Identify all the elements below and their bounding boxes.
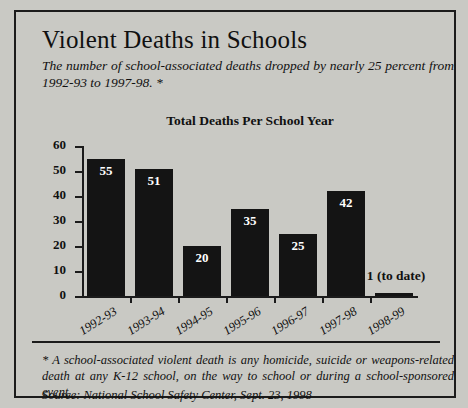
bar-value-label: 25 [279, 238, 317, 254]
y-axis-tick: 0 [75, 296, 82, 298]
x-axis-tick [226, 298, 228, 303]
y-axis-tick: 30 [75, 221, 82, 223]
y-axis-tick: 40 [75, 196, 82, 198]
x-axis-tick [130, 298, 132, 303]
bar-value-label: 55 [87, 163, 125, 179]
bar-value-label: 42 [327, 195, 365, 211]
chart-title: Total Deaths Per School Year [16, 113, 468, 129]
bar-chart-plot: 0102030405060 5551203525421 (to date) 19… [82, 146, 418, 298]
x-axis-label: 1998-99 [356, 304, 408, 344]
bar: 25 [279, 234, 317, 297]
x-axis-label: 1994-95 [164, 304, 216, 344]
bar: 42 [327, 191, 365, 296]
y-axis-tick-label: 60 [53, 137, 66, 153]
x-axis-label: 1997-98 [308, 304, 360, 344]
y-axis-tick: 20 [75, 246, 82, 248]
page-subtitle: The number of school-associated deaths d… [42, 58, 454, 91]
x-axis-label: 1995-96 [212, 304, 264, 344]
x-axis-tick [370, 298, 372, 303]
page-title: Violent Deaths in Schools [42, 26, 307, 54]
bar: 35 [231, 209, 269, 297]
x-axis-tick [322, 298, 324, 303]
bar-value-label: 35 [231, 213, 269, 229]
bar: 51 [135, 169, 173, 297]
source-text: Source: National School Safety Center, S… [42, 388, 312, 403]
y-axis-tick-label: 10 [53, 262, 66, 278]
x-axis-tick [274, 298, 276, 303]
x-axis-label: 1992-93 [68, 304, 120, 344]
y-axis-tick: 50 [75, 171, 82, 173]
bar-annotation-label: 1 (to date) [367, 268, 425, 284]
y-axis-tick-label: 40 [53, 187, 66, 203]
y-axis [82, 146, 84, 298]
x-axis-tick [178, 298, 180, 303]
y-axis-tick: 60 [75, 146, 82, 148]
bar [375, 293, 413, 296]
y-axis-tick: 10 [75, 271, 82, 273]
bar: 20 [183, 246, 221, 296]
bar-value-label: 51 [135, 173, 173, 189]
x-axis-label: 1996-97 [260, 304, 312, 344]
y-axis-tick-label: 50 [53, 162, 66, 178]
bar-value-label: 20 [183, 250, 221, 266]
infographic-page: Violent Deaths in Schools The number of … [0, 0, 468, 408]
x-axis [82, 296, 418, 298]
x-axis-label: 1993-94 [116, 304, 168, 344]
bar: 55 [87, 159, 125, 297]
y-axis-tick-label: 30 [53, 212, 66, 228]
y-axis-tick-label: 0 [60, 287, 67, 303]
y-axis-tick-label: 20 [53, 237, 66, 253]
footer-divider [32, 341, 440, 343]
infographic-frame: Violent Deaths in Schools The number of … [14, 10, 456, 398]
